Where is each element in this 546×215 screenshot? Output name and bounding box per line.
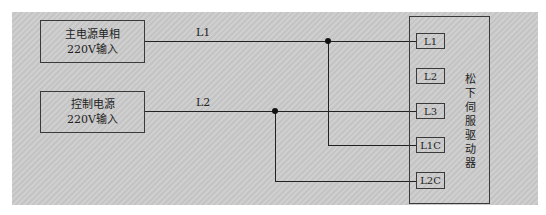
- terminal-l1c: L1C: [416, 137, 445, 153]
- control-power-box: 控制电源 220V输入: [40, 91, 145, 133]
- wire-label-l2: L2: [196, 96, 210, 109]
- terminal-l2c: L2C: [416, 172, 445, 189]
- wire-l1-drop: [328, 41, 329, 145]
- control-power-label-line2: 220V输入: [67, 112, 118, 127]
- terminal-l2: L2: [416, 68, 445, 84]
- main-power-label-line1: 主电源单相: [65, 27, 120, 42]
- control-power-label-line1: 控制电源: [71, 97, 115, 112]
- wire-label-l1: L1: [196, 26, 210, 39]
- servo-driver-title: 松下伺服驱动器: [463, 73, 477, 171]
- main-power-box: 主电源单相 220V输入: [40, 20, 145, 63]
- wire-l2c: [275, 181, 416, 182]
- main-power-label-line2: 220V输入: [67, 42, 118, 57]
- wire-l1-main: [145, 41, 416, 42]
- terminal-l3: L3: [416, 103, 445, 119]
- terminal-l1: L1: [416, 33, 445, 49]
- wire-l1c: [328, 145, 416, 146]
- wire-l2-drop: [275, 111, 276, 181]
- wire-l2-main: [145, 111, 416, 112]
- junction-dot-l1: [325, 38, 331, 44]
- junction-dot-l2: [272, 108, 278, 114]
